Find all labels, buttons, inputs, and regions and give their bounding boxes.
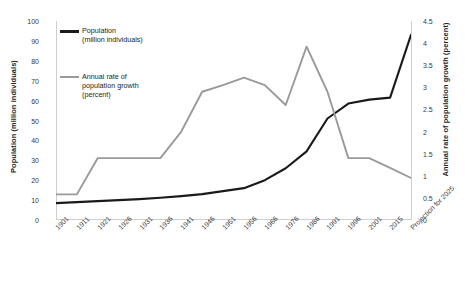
x-tick-label: 1956 [242, 215, 258, 231]
x-tick-label: 1986 [305, 215, 321, 231]
population-growth-chart: Population (million individuals) Annual … [0, 0, 467, 299]
x-tick-label: 1936 [158, 215, 174, 231]
x-tick-label: 1911 [75, 215, 91, 231]
x-tick-label: 1976 [284, 215, 300, 231]
legend-color-swatch [60, 30, 79, 33]
x-tick-label: 2001 [367, 215, 383, 231]
legend-color-swatch [60, 76, 79, 78]
x-tick-label: 1941 [179, 215, 195, 231]
x-tick-label: 1951 [221, 215, 237, 231]
x-axis-ticks: 1901191119211926193119361941194619511956… [0, 0, 467, 299]
x-tick-label: 1931 [138, 215, 154, 231]
x-tick-label: 1926 [117, 215, 133, 231]
x-tick-label: 1946 [200, 215, 216, 231]
x-tick-label: 1921 [96, 215, 112, 231]
x-tick-label: 2015 [388, 215, 404, 231]
x-tick-label: 1996 [346, 215, 362, 231]
legend-label: Population(million individuals) [82, 26, 143, 44]
x-tick-label: 1991 [325, 215, 341, 231]
x-tick-label: 1966 [263, 215, 279, 231]
x-tick-label: 1901 [54, 215, 70, 231]
x-tick-label: Projection for 2025 [409, 184, 456, 231]
legend-label: Annual rate ofpopulation growth(percent) [82, 72, 139, 100]
y-axis-right-spine [411, 21, 412, 220]
legend-item-population[interactable]: Population(million individuals) [60, 26, 143, 44]
legend-item-growth-rate[interactable]: Annual rate ofpopulation growth(percent) [60, 72, 139, 100]
